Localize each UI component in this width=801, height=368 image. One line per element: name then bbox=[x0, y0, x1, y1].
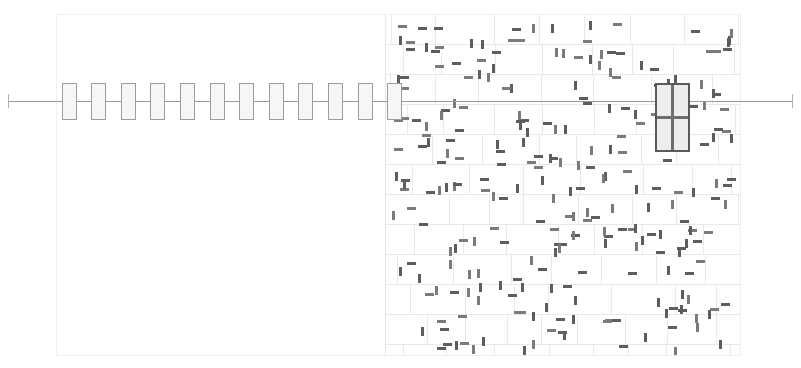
stud-rect[interactable] bbox=[388, 83, 402, 119]
anchor-mark-horizontal bbox=[406, 48, 415, 51]
anchor-mark-vertical bbox=[603, 227, 606, 236]
anchor-mark-vertical bbox=[647, 203, 650, 212]
stud-rect[interactable] bbox=[358, 83, 372, 119]
anchor-mark-horizontal bbox=[723, 184, 732, 187]
stud-rect[interactable] bbox=[62, 83, 76, 119]
anchor-mark-horizontal bbox=[619, 345, 628, 348]
anchor-mark-horizontal bbox=[712, 50, 721, 53]
anchor-mark-horizontal bbox=[550, 228, 559, 231]
anchor-mark-vertical bbox=[635, 242, 638, 251]
anchor-mark-vertical bbox=[609, 68, 612, 77]
anchor-mark-vertical bbox=[644, 333, 647, 342]
anchor-mark-vertical bbox=[395, 172, 398, 181]
drawing-canvas[interactable] bbox=[0, 0, 801, 368]
anchor-mark-horizontal bbox=[407, 262, 416, 265]
anchor-mark-horizontal bbox=[450, 291, 459, 294]
anchor-mark-vertical bbox=[586, 208, 589, 217]
selected-cell[interactable] bbox=[656, 84, 672, 117]
anchor-mark-vertical bbox=[598, 61, 601, 70]
anchor-mark-vertical bbox=[399, 267, 402, 276]
anchor-mark-vertical bbox=[492, 192, 495, 201]
anchor-mark-vertical bbox=[572, 315, 575, 324]
stud-rect[interactable] bbox=[299, 83, 313, 119]
anchor-mark-horizontal bbox=[400, 76, 409, 79]
anchor-mark-vertical bbox=[659, 230, 662, 239]
anchor-mark-horizontal bbox=[680, 220, 689, 223]
anchor-mark-vertical bbox=[574, 81, 577, 90]
anchor-mark-horizontal bbox=[668, 326, 677, 329]
anchor-mark-vertical bbox=[530, 256, 533, 265]
anchor-mark-vertical bbox=[700, 80, 703, 89]
anchor-mark-vertical bbox=[724, 200, 727, 209]
anchor-mark-horizontal bbox=[693, 240, 702, 243]
anchor-mark-horizontal bbox=[618, 228, 627, 231]
anchor-mark-vertical bbox=[712, 133, 715, 142]
selected-cell[interactable] bbox=[656, 118, 672, 151]
anchor-mark-vertical bbox=[559, 158, 562, 167]
anchor-mark-horizontal bbox=[497, 163, 506, 166]
anchor-mark-vertical bbox=[600, 50, 603, 59]
anchor-mark-vertical bbox=[418, 274, 421, 283]
anchor-mark-vertical bbox=[532, 312, 535, 321]
anchor-mark-horizontal bbox=[401, 179, 410, 182]
anchor-mark-horizontal bbox=[477, 59, 486, 62]
anchor-mark-horizontal bbox=[663, 159, 672, 162]
stud-rect[interactable] bbox=[121, 83, 135, 119]
anchor-mark-vertical bbox=[674, 75, 677, 84]
anchor-mark-horizontal bbox=[583, 219, 592, 222]
anchor-mark-vertical bbox=[449, 260, 452, 269]
anchor-mark-horizontal bbox=[481, 189, 490, 192]
anchor-mark-vertical bbox=[554, 125, 557, 134]
anchor-mark-horizontal bbox=[722, 130, 731, 133]
anchor-mark-horizontal bbox=[652, 187, 661, 190]
anchor-mark-vertical bbox=[562, 49, 565, 58]
stud-rect[interactable] bbox=[269, 83, 283, 119]
stud-rect[interactable] bbox=[210, 83, 224, 119]
anchor-mark-horizontal bbox=[437, 161, 446, 164]
anchor-mark-vertical bbox=[425, 43, 428, 52]
anchor-mark-vertical bbox=[696, 323, 699, 332]
anchor-mark-vertical bbox=[549, 154, 552, 163]
anchor-mark-vertical bbox=[446, 149, 449, 158]
anchor-mark-vertical bbox=[552, 194, 555, 203]
anchor-mark-horizontal bbox=[446, 139, 455, 142]
drawing-svg[interactable] bbox=[0, 0, 801, 368]
anchor-mark-vertical bbox=[609, 145, 612, 154]
stud-rect[interactable] bbox=[92, 83, 106, 119]
anchor-mark-vertical bbox=[634, 224, 637, 233]
stud-rect[interactable] bbox=[151, 83, 165, 119]
anchor-mark-horizontal bbox=[691, 30, 700, 33]
selected-element-group[interactable] bbox=[656, 84, 689, 151]
anchor-mark-horizontal bbox=[422, 134, 431, 137]
anchor-mark-vertical bbox=[399, 36, 402, 45]
anchor-mark-horizontal bbox=[576, 187, 585, 190]
selected-cell[interactable] bbox=[673, 118, 689, 151]
anchor-mark-horizontal bbox=[612, 319, 621, 322]
anchor-mark-vertical bbox=[712, 89, 715, 98]
anchor-mark-vertical bbox=[421, 327, 424, 336]
anchor-mark-horizontal bbox=[704, 231, 713, 234]
anchor-mark-horizontal bbox=[419, 223, 428, 226]
anchor-mark-vertical bbox=[574, 296, 577, 305]
anchor-mark-vertical bbox=[589, 55, 592, 64]
stud-rect[interactable] bbox=[328, 83, 342, 119]
anchor-mark-horizontal bbox=[636, 122, 645, 125]
stud-rect[interactable] bbox=[180, 83, 194, 119]
stud-rect[interactable] bbox=[240, 83, 254, 119]
anchor-mark-vertical bbox=[519, 121, 522, 130]
selected-cell[interactable] bbox=[673, 84, 689, 117]
anchor-mark-horizontal bbox=[512, 28, 521, 31]
anchor-mark-vertical bbox=[572, 231, 575, 240]
anchor-mark-horizontal bbox=[591, 216, 600, 219]
anchor-mark-horizontal bbox=[628, 272, 637, 275]
anchor-mark-vertical bbox=[454, 244, 457, 253]
anchor-mark-horizontal bbox=[556, 318, 565, 321]
anchor-mark-vertical bbox=[554, 248, 557, 257]
anchor-mark-vertical bbox=[641, 236, 644, 245]
anchor-mark-horizontal bbox=[480, 178, 489, 181]
anchor-mark-vertical bbox=[689, 226, 692, 235]
anchor-mark-horizontal bbox=[723, 48, 732, 51]
anchor-mark-horizontal bbox=[527, 161, 536, 164]
anchor-mark-horizontal bbox=[720, 108, 729, 111]
anchor-mark-vertical bbox=[674, 347, 677, 356]
